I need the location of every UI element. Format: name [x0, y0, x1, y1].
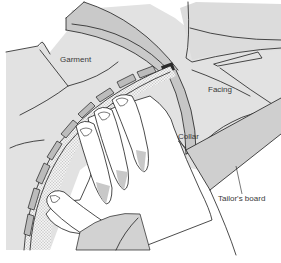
illustration-artwork [0, 0, 281, 263]
label-tailors-board: Tailor's board [218, 195, 265, 203]
label-facing: Facing [208, 86, 232, 94]
tailoring-illustration: Garment Facing Collar Tailor's board [0, 0, 281, 263]
label-garment: Garment [60, 56, 91, 64]
label-collar: Collar [178, 133, 199, 141]
